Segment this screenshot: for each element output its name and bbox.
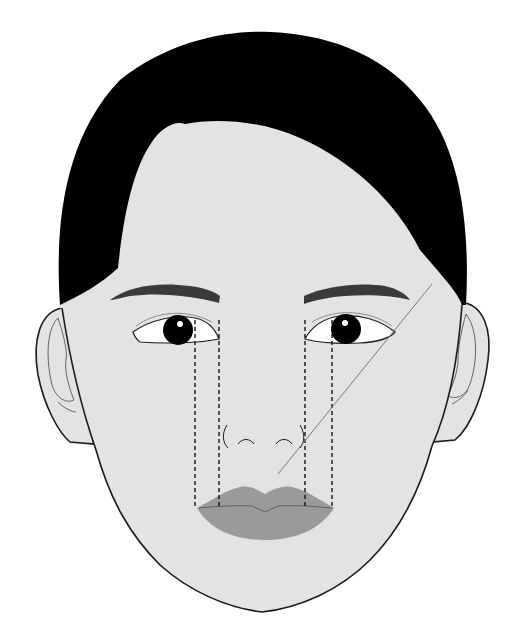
left-iris (163, 315, 193, 345)
left-eye-highlight (177, 321, 183, 327)
right-eye-highlight (342, 320, 348, 326)
face-diagram (0, 0, 520, 643)
face-illustration (0, 0, 520, 643)
right-iris (331, 314, 361, 344)
